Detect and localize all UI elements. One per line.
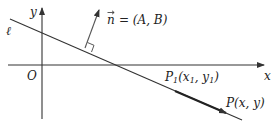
p-label: P(x, y) [225, 96, 265, 110]
line-normal-diagram: y x O ℓ n = (A, B) P1(x1, y1) P(x, y) [0, 0, 273, 127]
normal-equation: = (A, B) [119, 13, 168, 27]
right-angle-mark [88, 43, 95, 53]
y-axis-label: y [29, 5, 37, 19]
normal-letter: n [107, 13, 115, 27]
origin-label: O [27, 69, 37, 83]
line-label: ℓ [6, 24, 11, 38]
p1-label: P1(x1, y1) [164, 70, 219, 85]
normal-vector [85, 10, 99, 52]
vector-p1-p [175, 91, 226, 113]
normal-vector-label: n = (A, B) [107, 11, 168, 27]
x-axis-label: x [264, 69, 271, 83]
